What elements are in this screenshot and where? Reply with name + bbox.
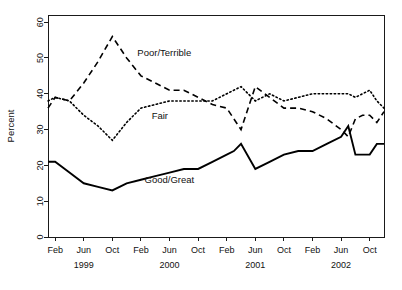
x-tick-label: Jun [334,245,349,255]
x-tick-label: Oct [105,245,120,255]
x-axis-ticks: FebJunOctFebJunOctFebJunOctFebJunOct [47,237,377,255]
y-axis-title: Percent [5,109,16,142]
x-tick-label: Feb [305,245,321,255]
y-tick-label: 30 [35,125,45,135]
x-tick-label: Oct [277,245,292,255]
series-label-good-great: Good/Great [145,174,195,185]
series-line-good-great [48,126,384,190]
y-tick-label: 0 [35,234,45,239]
x-axis-year-label: 2002 [331,260,351,270]
y-tick-label: 20 [35,160,45,170]
y-axis-ticks: 0102030405060 [35,17,48,239]
x-axis-year-label: 1999 [74,260,94,270]
x-tick-label: Feb [219,245,235,255]
x-tick-label: Jun [248,245,263,255]
series-annotations: Poor/TerribleFairGood/Great [137,47,194,185]
x-tick-label: Jun [162,245,177,255]
series-line-poor-terrible [48,36,384,136]
x-axis-year-label: 2001 [245,260,265,270]
data-series-group [48,36,384,190]
line-chart-svg: 0102030405060 FebJunOctFebJunOctFebJunOc… [0,0,402,290]
x-tick-label: Jun [76,245,91,255]
y-tick-label: 50 [35,53,45,63]
x-tick-label: Feb [133,245,149,255]
x-tick-label: Feb [47,245,63,255]
x-axis-year-labels: 1999200020012002 [74,260,351,270]
x-axis-year-label: 2000 [160,260,180,270]
x-tick-label: Oct [363,245,378,255]
y-tick-label: 10 [35,196,45,206]
y-tick-label: 60 [35,17,45,27]
chart-figure: 0102030405060 FebJunOctFebJunOctFebJunOc… [0,0,402,290]
series-label-fair: Fair [152,110,168,121]
x-tick-label: Oct [191,245,206,255]
y-tick-label: 40 [35,89,45,99]
series-label-poor-terrible: Poor/Terrible [137,47,191,58]
series-line-fair [48,87,384,141]
